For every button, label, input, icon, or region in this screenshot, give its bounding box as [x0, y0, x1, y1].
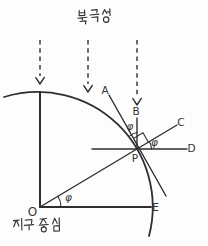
point-label-E: E — [152, 201, 159, 213]
point-label-P: P — [132, 152, 138, 164]
point-label-C: C — [177, 116, 184, 128]
polaris-latitude-diagram: A B C D E O P φ φ φ — [0, 0, 208, 246]
phi-label-at-P-right: φ — [151, 136, 158, 148]
point-label-B: B — [132, 105, 139, 117]
phi-label-at-P-left: φ — [127, 120, 134, 132]
point-label-D: D — [187, 142, 195, 154]
point-label-O: O — [28, 205, 37, 219]
diagram-svg: A B C D E O P φ φ φ — [0, 0, 208, 246]
point-label-A: A — [101, 84, 109, 96]
phi-label-at-O: φ — [65, 191, 72, 203]
